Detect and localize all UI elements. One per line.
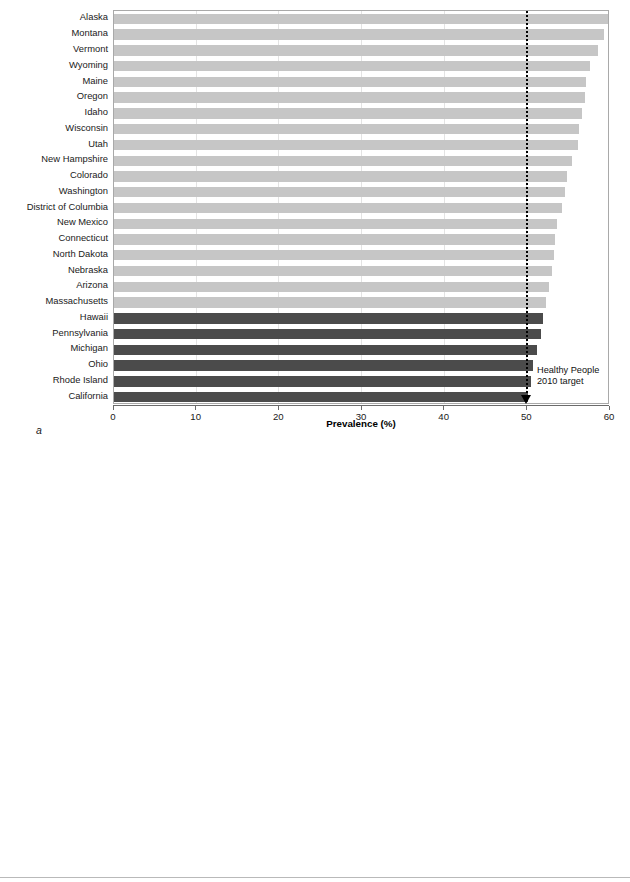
tick-30: [361, 406, 362, 410]
category-label: Pennsylvania: [52, 328, 108, 337]
target-arrow-icon: [521, 395, 531, 404]
target-reference-line: [526, 11, 528, 404]
plot-area-a: [113, 10, 609, 404]
category-label: District of Columbia: [27, 202, 108, 211]
bar-row: [114, 92, 608, 102]
bar: [114, 187, 565, 197]
category-label: Michigan: [70, 343, 108, 352]
bar: [114, 282, 549, 292]
tick-10: [195, 406, 196, 410]
category-label: Idaho: [85, 107, 108, 116]
category-label: Nebraska: [68, 265, 108, 274]
bar-row: [114, 345, 608, 355]
category-label: Arizona: [76, 280, 108, 289]
tick-50: [526, 406, 527, 410]
bar-row: [114, 376, 608, 386]
category-label: Colorado: [70, 170, 108, 179]
bar-row: [114, 313, 608, 323]
category-label: California: [68, 391, 108, 400]
bar: [114, 392, 528, 402]
bar-row: [114, 219, 608, 229]
category-label: Rhode Island: [53, 375, 108, 384]
bar: [114, 345, 537, 355]
bar: [114, 376, 531, 386]
tick-60: [609, 406, 610, 410]
bar-row: [114, 108, 608, 118]
category-label: New Hampshire: [41, 154, 108, 163]
bar: [114, 140, 578, 150]
category-label: Maine: [82, 76, 108, 85]
bar: [114, 266, 552, 276]
bar-row: [114, 392, 608, 402]
category-label: Wisconsin: [65, 123, 108, 132]
bar: [114, 171, 567, 181]
panel-a: AlaskaMontanaVermontWyomingMaineOregonId…: [0, 0, 630, 440]
target-annotation-a: Healthy People 2010 target: [537, 365, 599, 388]
bar: [114, 203, 562, 213]
bar-row: [114, 77, 608, 87]
bar-row: [114, 14, 608, 24]
bar: [114, 234, 555, 244]
category-label: North Dakota: [53, 249, 108, 258]
target-note-line1: Healthy People: [537, 365, 599, 376]
bar: [114, 313, 543, 323]
bar-row: [114, 297, 608, 307]
bar-row: [114, 61, 608, 71]
bar-row: [114, 360, 608, 370]
footer-rule: [0, 877, 630, 878]
category-label: Washington: [59, 186, 108, 195]
tick-20: [278, 406, 279, 410]
bar-row: [114, 140, 608, 150]
category-label: Alaska: [80, 12, 108, 21]
bar: [114, 45, 598, 55]
category-label: Utah: [88, 139, 108, 148]
category-label: Oregon: [77, 91, 108, 100]
tick-40: [443, 406, 444, 410]
bar-row: [114, 124, 608, 134]
bar-row: [114, 29, 608, 39]
category-label: Vermont: [73, 44, 108, 53]
bar: [114, 250, 554, 260]
category-label: Montana: [72, 28, 108, 37]
figure-root: AlaskaMontanaVermontWyomingMaineOregonId…: [0, 0, 630, 882]
panel-b: VirginiaNew YorkMissouriMinnesotaIllinoi…: [0, 440, 630, 882]
category-label: New Mexico: [57, 217, 108, 226]
bar-row: [114, 282, 608, 292]
bar: [114, 108, 582, 118]
category-label: Ohio: [88, 359, 108, 368]
bar: [114, 329, 541, 339]
bar: [114, 124, 579, 134]
bar-row: [114, 266, 608, 276]
bar-row: [114, 250, 608, 260]
bar: [114, 92, 585, 102]
bar: [114, 14, 609, 24]
bar: [114, 360, 533, 370]
bar: [114, 77, 586, 87]
bar-row: [114, 187, 608, 197]
category-label: Connecticut: [58, 233, 108, 242]
target-note-line2: 2010 target: [537, 376, 599, 387]
bar-row: [114, 171, 608, 181]
category-label: Hawaii: [80, 312, 108, 321]
bar-row: [114, 203, 608, 213]
bar: [114, 156, 572, 166]
panel-letter-a: a: [36, 424, 42, 436]
bar: [114, 297, 546, 307]
category-label: Wyoming: [69, 60, 108, 69]
category-label: Massachusetts: [45, 296, 108, 305]
bar-row: [114, 156, 608, 166]
axis-title-a: Prevalence (%): [113, 418, 609, 429]
bar: [114, 219, 557, 229]
bar: [114, 61, 590, 71]
tick-0: [113, 406, 114, 410]
bar: [114, 29, 604, 39]
bar-row: [114, 45, 608, 55]
bar-row: [114, 329, 608, 339]
bar-row: [114, 234, 608, 244]
